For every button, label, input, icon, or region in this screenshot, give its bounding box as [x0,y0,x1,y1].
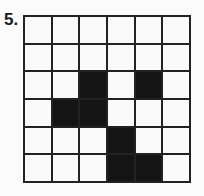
empty-cell [163,100,189,126]
empty-cell [25,128,51,154]
empty-cell [80,128,106,154]
empty-cell [136,45,162,71]
filled-cell [80,100,106,126]
empty-cell [53,17,79,43]
empty-cell [108,17,134,43]
empty-cell [25,155,51,181]
problem-number: 5. [4,10,18,30]
filled-cell [136,72,162,98]
filled-cell [108,155,134,181]
empty-cell [108,100,134,126]
empty-cell [25,17,51,43]
filled-cell [108,128,134,154]
empty-cell [25,72,51,98]
empty-cell [53,128,79,154]
empty-cell [25,100,51,126]
empty-cell [163,45,189,71]
empty-cell [53,155,79,181]
filled-cell [53,100,79,126]
empty-cell [80,155,106,181]
empty-cell [163,17,189,43]
empty-cell [136,100,162,126]
empty-cell [163,128,189,154]
empty-cell [136,17,162,43]
empty-cell [25,45,51,71]
empty-cell [163,155,189,181]
empty-cell [163,72,189,98]
filled-cell [80,72,106,98]
empty-cell [53,72,79,98]
empty-cell [108,45,134,71]
empty-cell [80,17,106,43]
filled-cell [136,155,162,181]
empty-cell [80,45,106,71]
shaded-grid [23,15,191,183]
empty-cell [53,45,79,71]
empty-cell [108,72,134,98]
empty-cell [136,128,162,154]
